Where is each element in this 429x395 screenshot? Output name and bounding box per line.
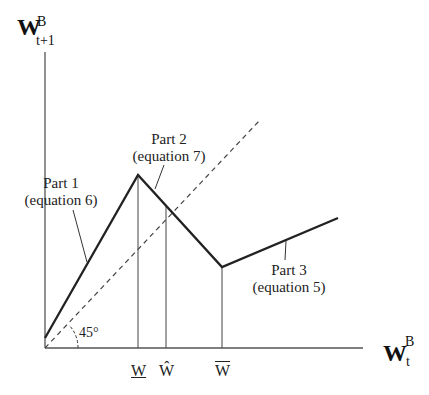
leader-part2 bbox=[155, 165, 164, 189]
part3-label: Part 3 (equation 5) bbox=[244, 262, 334, 296]
x-axis-title-sub: t bbox=[406, 354, 410, 370]
part1-title: Part 1 bbox=[16, 175, 106, 192]
angle-arc bbox=[69, 325, 78, 348]
tick-w-overline: W bbox=[215, 362, 230, 380]
y-axis-title-sup: B bbox=[37, 14, 46, 30]
y-axis-title: W B t+1 bbox=[17, 14, 77, 54]
tick-w-underline: W bbox=[131, 362, 146, 380]
part1-equation: (equation 6) bbox=[16, 192, 106, 209]
x-axis-title: W B t bbox=[383, 340, 429, 380]
part2-equation: (equation 7) bbox=[127, 148, 211, 165]
leader-part3 bbox=[285, 241, 286, 260]
part1-label: Part 1 (equation 6) bbox=[16, 175, 106, 209]
part3-title: Part 3 bbox=[244, 262, 334, 279]
part3-equation: (equation 5) bbox=[244, 279, 334, 296]
angle-label: 45° bbox=[79, 324, 99, 341]
y-axis-title-sub: t+1 bbox=[36, 33, 55, 49]
part2-label: Part 2 (equation 7) bbox=[127, 131, 211, 165]
part2-title: Part 2 bbox=[127, 131, 211, 148]
x-axis-title-base: W bbox=[383, 340, 407, 366]
tick-w-hat: Ŵ bbox=[159, 362, 174, 380]
x-axis-title-sup: B bbox=[405, 334, 414, 350]
leader-part1 bbox=[73, 210, 87, 262]
